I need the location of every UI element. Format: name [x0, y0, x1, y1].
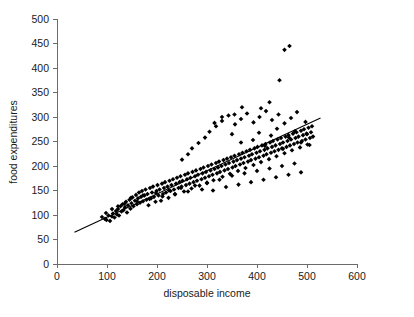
scatter-point — [182, 189, 187, 194]
scatter-point — [277, 78, 282, 83]
scatter-point — [220, 174, 225, 179]
y-tick-label: 450 — [31, 37, 49, 49]
scatter-point — [207, 129, 212, 134]
scatter-point — [249, 180, 254, 185]
scatter-point — [280, 164, 285, 169]
scatter-point — [186, 152, 191, 157]
x-tick-label: 600 — [348, 270, 366, 282]
scatter-point — [282, 48, 287, 53]
scatter-point — [257, 115, 262, 120]
y-tick-label: 100 — [31, 209, 49, 221]
scatter-point — [205, 181, 210, 186]
scatter-point — [286, 173, 291, 178]
scatter-point — [189, 186, 194, 191]
scatter-point — [242, 171, 247, 176]
scatter-point — [270, 118, 275, 123]
y-tick-label: 50 — [37, 233, 49, 245]
y-axis-title: food expenditures — [7, 100, 19, 183]
scatter-point — [153, 199, 158, 204]
scatter-point — [267, 157, 272, 162]
x-tick-label: 0 — [54, 270, 60, 282]
scatter-point — [251, 120, 256, 125]
scatter-point — [259, 106, 264, 111]
scatter-point — [159, 198, 164, 203]
scatter-point — [150, 190, 155, 195]
y-axis-ticks: 050100150200250300350400450500 — [31, 13, 57, 270]
scatter-point — [239, 140, 244, 145]
y-tick-label: 200 — [31, 160, 49, 172]
scatter-point — [110, 207, 115, 212]
scatter-point — [298, 145, 303, 150]
scatter-point — [125, 210, 130, 215]
scatter-point — [309, 130, 314, 135]
scatter-point — [203, 135, 208, 140]
scatter-point — [282, 121, 287, 126]
scatter-point — [230, 132, 235, 137]
y-tick-label: 350 — [31, 86, 49, 98]
scatter-point — [236, 182, 241, 187]
scatter-point — [275, 126, 280, 131]
y-tick-label: 400 — [31, 62, 49, 74]
scatter-point — [240, 105, 245, 110]
scatter-point — [251, 163, 256, 168]
scatter-point — [251, 138, 256, 143]
y-tick-label: 250 — [31, 135, 49, 147]
scatter-point — [267, 166, 272, 171]
scatter-point — [243, 166, 248, 171]
scatter-point — [261, 177, 266, 182]
scatter-point — [264, 109, 269, 114]
scatter-point — [287, 44, 292, 49]
scatter-chart: 050100150200250300350400450500 010020030… — [0, 0, 414, 317]
scatter-point — [200, 187, 205, 192]
scatter-point — [282, 151, 287, 156]
chart-canvas: 050100150200250300350400450500 010020030… — [0, 0, 414, 317]
scatter-point — [267, 100, 272, 105]
data-points — [100, 44, 316, 224]
x-axis-title: disposable income — [164, 287, 251, 299]
scatter-point — [292, 161, 297, 166]
scatter-point — [226, 113, 231, 118]
scatter-point — [220, 115, 225, 120]
scatter-point — [269, 133, 274, 138]
scatter-point — [220, 119, 225, 124]
scatter-point — [290, 148, 295, 153]
scatter-point — [197, 183, 202, 188]
scatter-point — [116, 204, 121, 209]
scatter-point — [299, 170, 304, 175]
scatter-point — [217, 177, 222, 182]
regression-line — [75, 118, 321, 232]
y-tick-label: 150 — [31, 184, 49, 196]
scatter-point — [236, 169, 241, 174]
scatter-point — [245, 111, 250, 116]
scatter-point — [259, 160, 264, 165]
scatter-point — [155, 183, 160, 188]
y-tick-label: 500 — [31, 13, 49, 25]
scatter-point — [239, 117, 244, 122]
scatter-point — [196, 141, 201, 146]
x-tick-label: 100 — [98, 270, 116, 282]
scatter-point — [211, 188, 216, 193]
x-tick-label: 300 — [198, 270, 216, 282]
scatter-point — [232, 112, 237, 117]
scatter-point — [276, 112, 281, 117]
scatter-point — [166, 196, 171, 201]
scatter-point — [180, 157, 185, 162]
scatter-point — [108, 219, 113, 224]
y-tick-label: 300 — [31, 111, 49, 123]
scatter-point — [274, 175, 279, 180]
scatter-point — [186, 189, 191, 194]
scatter-point — [190, 146, 195, 151]
scatter-point — [211, 178, 216, 183]
scatter-point — [303, 120, 308, 125]
scatter-point — [233, 122, 238, 127]
scatter-point — [224, 185, 229, 190]
scatter-point — [295, 110, 300, 115]
scatter-point — [289, 116, 294, 121]
scatter-point — [257, 130, 262, 135]
scatter-point — [173, 192, 178, 197]
y-tick-label: 0 — [43, 258, 49, 270]
x-tick-label: 500 — [298, 270, 316, 282]
x-tick-label: 400 — [248, 270, 266, 282]
x-axis-ticks: 0100200300400500600 — [54, 264, 366, 282]
scatter-point — [274, 154, 279, 159]
